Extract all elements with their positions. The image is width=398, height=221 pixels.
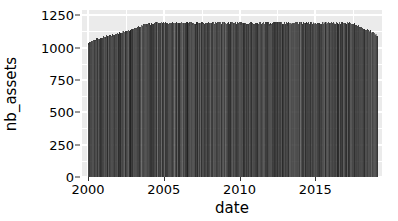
y-tick-label: 1000: [28, 40, 74, 55]
data-bar-highlight: [343, 26, 345, 177]
data-bar-highlight: [194, 25, 195, 177]
y-axis-title-text: nb_assets: [2, 57, 20, 131]
data-bar-highlight: [142, 25, 144, 177]
x-tick-mark: [88, 177, 89, 181]
data-bar-highlight: [359, 28, 360, 177]
data-bar-highlight: [96, 40, 97, 177]
y-tick-label: 1250: [28, 8, 74, 23]
data-bar-highlight: [222, 25, 224, 177]
data-bar-highlight: [284, 23, 285, 177]
data-bar-highlight: [93, 41, 94, 177]
data-bar-highlight: [323, 22, 325, 177]
y-tick-mark: [75, 177, 80, 178]
y-tick-label: 500: [28, 105, 74, 120]
x-tick-mark: [164, 177, 165, 181]
data-bar-highlight: [190, 24, 191, 177]
x-tick-label: 2000: [72, 182, 105, 197]
y-tick-label: 750: [28, 72, 74, 87]
y-tick-label: 0: [28, 170, 74, 185]
x-tick-mark: [240, 177, 241, 181]
data-bar-highlight: [196, 25, 197, 177]
y-axis-title: nb_assets: [0, 0, 22, 188]
x-tick-label: 2005: [147, 182, 180, 197]
data-bar-highlight: [326, 22, 327, 177]
data-bar-highlight: [375, 34, 377, 177]
data-bar-highlight: [215, 22, 216, 177]
chart-root: nb_assets 025050075010001250 20002005201…: [0, 0, 398, 221]
data-series-nb-assets: [82, 10, 382, 177]
data-bar-highlight: [368, 32, 370, 177]
data-bar-highlight: [334, 23, 335, 177]
x-tick-mark: [315, 177, 316, 181]
data-bar-highlight: [259, 22, 261, 177]
data-bar-highlight: [306, 24, 307, 177]
data-bar-highlight: [332, 23, 333, 177]
x-axis-title: date: [82, 199, 382, 217]
data-bar-highlight: [316, 24, 318, 177]
data-bar-highlight: [258, 24, 259, 177]
data-bar-highlight: [154, 24, 155, 177]
data-bar-highlight: [168, 25, 170, 177]
data-bar-highlight: [110, 36, 112, 178]
data-bar: [377, 36, 378, 177]
data-bar-highlight: [365, 31, 366, 177]
y-tick-mark: [75, 15, 80, 16]
y-tick-label: 250: [28, 137, 74, 152]
data-bar-highlight: [314, 23, 316, 177]
data-bar-highlight: [127, 31, 128, 177]
data-bar-highlight: [301, 25, 302, 177]
data-bar-highlight: [239, 25, 241, 177]
x-tick-label: 2010: [223, 182, 256, 197]
data-bar-highlight: [241, 25, 242, 177]
data-bar-highlight: [371, 32, 373, 177]
data-bar-highlight: [289, 25, 291, 177]
data-bar-highlight: [270, 25, 272, 177]
y-tick-mark: [75, 144, 80, 145]
y-axis-tick-labels: 025050075010001250: [22, 0, 74, 188]
data-bar-highlight: [247, 25, 248, 177]
data-bar-highlight: [112, 37, 113, 177]
data-bar-highlight: [106, 38, 107, 177]
data-bar-highlight: [88, 45, 89, 177]
data-bar-highlight: [252, 25, 254, 177]
y-tick-mark: [75, 47, 80, 48]
x-tick-label: 2015: [299, 182, 332, 197]
y-tick-mark: [75, 79, 80, 80]
y-tick-mark: [75, 112, 80, 113]
data-bar-highlight: [123, 33, 124, 177]
data-bar-highlight: [149, 25, 150, 177]
data-bar-highlight: [145, 27, 147, 177]
data-bar-highlight: [202, 24, 204, 177]
data-bar-highlight: [220, 25, 221, 177]
data-bar-highlight: [135, 28, 136, 177]
plot-panel: [82, 10, 382, 177]
